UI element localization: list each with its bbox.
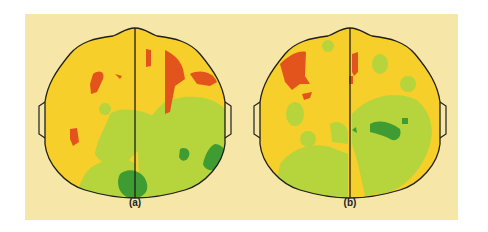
brain-map-a: [25, 14, 240, 220]
left-ear-a: [39, 102, 45, 138]
head-map-a: (a): [25, 14, 240, 220]
brain-map-b: [240, 14, 455, 220]
caption-a: (a): [115, 197, 155, 208]
caption-b: (b): [330, 197, 370, 208]
left-ear-b: [254, 102, 260, 138]
right-ear-b: [440, 102, 446, 138]
right-ear-a: [225, 102, 231, 138]
head-map-b: (b): [240, 14, 455, 220]
figure-panel: (a): [25, 14, 458, 220]
